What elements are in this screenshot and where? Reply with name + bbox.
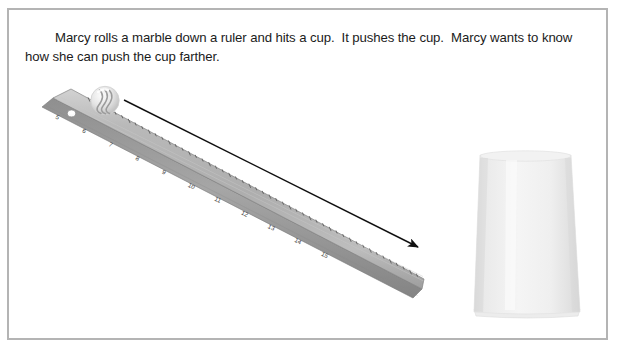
ruler-tick-marks: [88, 97, 418, 276]
ruler-face: [53, 89, 424, 289]
cup-base-rim: [474, 309, 580, 318]
ruler-surface-streaks: [57, 98, 424, 282]
ruler-number: 12: [240, 209, 250, 219]
ruler-bevel-line: [46, 106, 418, 296]
ruler-side-edge: [42, 98, 422, 298]
prompt-text: Marcy rolls a marble down a ruler and hi…: [25, 28, 597, 66]
marble-swirl: [97, 90, 112, 114]
ruler-number: 10: [187, 181, 197, 191]
illustration-panel: Marcy rolls a marble down a ruler and hi…: [7, 8, 608, 340]
screenshot-root: Marcy rolls a marble down a ruler and hi…: [0, 0, 617, 350]
ruler-illustration: 5 6 7 8 9 10 11 12 13 14 15: [42, 89, 424, 298]
cup-shading: [474, 158, 580, 312]
ruler-number: 15: [320, 250, 330, 260]
ruler-number: 6: [81, 127, 88, 135]
ruler-number: 13: [267, 222, 277, 232]
ruler-number: 9: [161, 168, 168, 176]
cup-illustration: [474, 151, 580, 318]
cup-top-face: [480, 151, 571, 161]
ruler-number: 7: [108, 140, 115, 148]
marble-highlight: [98, 90, 108, 92]
ruler-number-labels: 5 6 7 8 9 10 11 12 13 14 15: [55, 113, 331, 260]
ruler-number: 8: [134, 154, 141, 162]
cup-body: [474, 155, 580, 314]
ruler-number: 5: [55, 113, 62, 121]
marble-sphere: [91, 86, 119, 114]
direction-arrow: [124, 100, 418, 247]
hanging-hole-icon: [67, 110, 75, 117]
marble-illustration: [91, 86, 119, 114]
ruler-number: 14: [294, 236, 304, 246]
ruler-number: 11: [214, 195, 223, 204]
